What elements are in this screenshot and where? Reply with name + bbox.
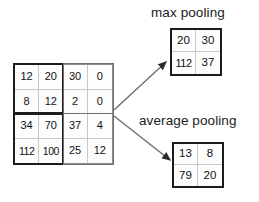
input-cell: 37 (64, 114, 88, 139)
input-cell: 25 (64, 139, 88, 164)
average-pooling-label: average pooling (139, 113, 237, 128)
input-cell: 2 (64, 90, 88, 115)
max-pooling-cell: 30 (196, 30, 220, 52)
input-cell: 100 (39, 139, 63, 164)
max-pooling-output: 20 30 112 37 (170, 28, 222, 76)
input-cell: 0 (88, 90, 112, 115)
input-cell: 12 (39, 90, 63, 115)
max-pooling-cell: 37 (196, 52, 220, 74)
input-cell: 4 (88, 114, 112, 139)
input-cell: 8 (15, 90, 39, 115)
input-cell: 112 (15, 139, 39, 164)
average-pooling-output: 13 8 79 20 (172, 142, 224, 188)
max-pooling-label: max pooling (151, 5, 225, 20)
max-pooling-cell: 112 (172, 52, 196, 74)
average-pooling-cell: 8 (198, 144, 222, 165)
max-pooling-cell: 20 (172, 30, 196, 52)
input-cell: 12 (15, 65, 39, 90)
input-feature-map: 12 20 30 0 8 12 2 0 34 70 37 4 112 100 2… (14, 64, 113, 164)
average-pooling-cell: 13 (174, 144, 198, 165)
input-cell: 0 (88, 65, 112, 90)
average-pooling-cell: 20 (198, 165, 222, 186)
input-cell: 70 (39, 114, 63, 139)
pooling-diagram: max pooling average pooling 12 20 30 0 8… (0, 0, 259, 202)
input-cell: 20 (39, 65, 63, 90)
input-cell: 30 (64, 65, 88, 90)
input-cell: 12 (88, 139, 112, 164)
arrow-to-max-pooling (114, 62, 166, 110)
average-pooling-cell: 79 (174, 165, 198, 186)
input-cell: 34 (15, 114, 39, 139)
